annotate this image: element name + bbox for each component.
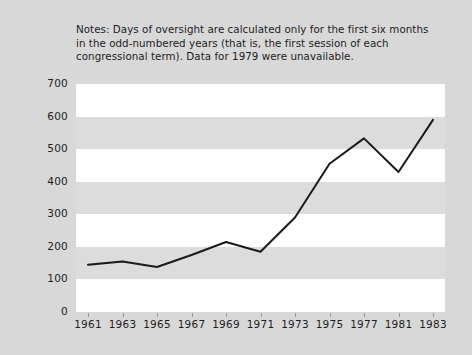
y-tick-label: 0	[34, 305, 68, 317]
y-tick-label: 200	[34, 240, 68, 252]
y-tick-label: 500	[34, 142, 68, 154]
x-tick-mark	[123, 313, 124, 317]
chart-figure: Notes: Days of oversight are calculated …	[0, 0, 472, 355]
x-tick-mark	[330, 313, 331, 317]
x-tick-mark	[399, 313, 400, 317]
x-tick-mark	[226, 313, 227, 317]
x-axis-tick-labels: 1961196319651967196919711973197519771981…	[76, 318, 445, 338]
x-tick-mark	[364, 313, 365, 317]
x-tick-mark	[88, 313, 89, 317]
y-tick-label: 100	[34, 272, 68, 284]
y-axis-tick-labels: 0100200300400500600700	[28, 84, 68, 312]
y-tick-label: 300	[34, 207, 68, 219]
y-tick-label: 600	[34, 110, 68, 122]
x-tick-mark	[261, 313, 262, 317]
x-tick-mark	[157, 313, 158, 317]
x-tick-mark	[433, 313, 434, 317]
chart-notes: Notes: Days of oversight are calculated …	[76, 23, 448, 64]
x-tick-mark	[192, 313, 193, 317]
plot-area	[76, 84, 445, 312]
x-tick-label: 1983	[413, 318, 453, 330]
x-tick-mark	[295, 313, 296, 317]
y-tick-label: 400	[34, 175, 68, 187]
y-tick-label: 700	[34, 77, 68, 89]
line-series	[76, 84, 445, 312]
series-polyline	[88, 120, 433, 267]
